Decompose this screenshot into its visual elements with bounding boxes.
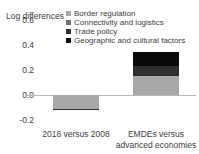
legend-swatch-border-regulation [66,11,71,16]
bar-segment [133,76,179,95]
bar-stack[interactable] [133,20,179,120]
y-axis-tick-label: 0.4 [2,40,34,50]
bar-segment [53,95,99,109]
y-axis-tick-label: 0.2 [2,65,34,75]
bar-segment [53,109,99,110]
plot-area [36,20,196,120]
stacked-bar-chart: Log differences Border regulation Connec… [0,0,199,154]
legend-item-border-regulation: Border regulation [66,9,185,18]
bar-stack[interactable] [53,20,99,120]
y-axis-tick-label: -0.2 [2,115,34,125]
y-axis-tick-label: 0.6 [2,15,34,25]
legend-label-border-regulation: Border regulation [74,9,135,18]
bar-segment [133,52,179,66]
bar-segment [133,66,179,75]
x-axis-category-label: EMDEs versus advanced economies [101,129,199,151]
